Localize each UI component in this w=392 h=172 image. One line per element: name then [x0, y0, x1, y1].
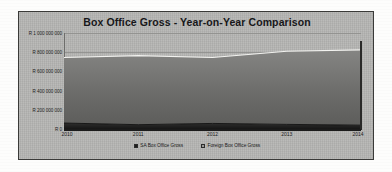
area-foreign-box-office [64, 50, 361, 125]
plot-right-edge [360, 41, 362, 130]
x-tick-label: 2013 [281, 131, 292, 137]
chart-title: Box Office Gross - Year-on-Year Comparis… [19, 16, 374, 28]
y-tick-label: R 800 000 000 [33, 50, 63, 55]
chart-panel: Box Office Gross - Year-on-Year Comparis… [18, 11, 374, 160]
y-tick-label: R 400 000 000 [33, 88, 63, 93]
legend-swatch-icon [201, 144, 205, 148]
x-tick-label: 2012 [207, 131, 218, 137]
legend-item[interactable]: Foreign Box Office Gross [201, 143, 260, 148]
x-tick-label: 2014 [352, 131, 363, 137]
chart-page: Box Office Gross - Year-on-Year Comparis… [0, 0, 392, 172]
x-axis-tick-labels: 20102011201220132014 [64, 131, 361, 141]
series-areas [64, 33, 361, 129]
y-tick-label: R 200 000 000 [33, 107, 63, 112]
x-tick-label: 2011 [133, 131, 144, 137]
plot-area [64, 33, 361, 129]
y-tick-label: R 600 000 000 [33, 69, 63, 74]
legend-label: SA Box Office Gross [140, 143, 183, 148]
legend-label: Foreign Box Office Gross [208, 143, 261, 148]
chart-legend: SA Box Office GrossForeign Box Office Gr… [19, 143, 374, 148]
y-tick-label: R 1 000 000 000 [29, 31, 62, 36]
y-axis-tick-labels: R 0R 200 000 000R 400 000 000R 600 000 0… [19, 33, 62, 129]
x-tick-label: 2010 [61, 131, 72, 137]
legend-item[interactable]: SA Box Office Gross [134, 143, 183, 148]
legend-swatch-icon [134, 144, 138, 148]
